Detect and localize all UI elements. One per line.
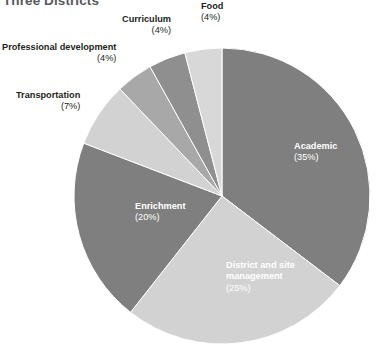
chart-canvas: Three Districts Food (4%) Curriculum (4%… [0,0,386,353]
pie-label-professional-development-name: Professional development [2,42,116,53]
pie-label-professional-development: Professional development (4%) [2,42,116,65]
pie-label-transportation-percent: (7%) [16,101,80,112]
pie-label-professional-development-percent: (4%) [2,53,116,64]
pie-slice-group [74,48,370,344]
pie-label-enrichment: Enrichment (20%) [135,201,186,224]
pie-label-district-and-site-management-name-line1: District and site [226,260,295,271]
pie-label-transportation-name: Transportation [16,90,80,101]
pie-label-curriculum: Curriculum (4%) [122,14,171,37]
pie-label-academic: Academic (35%) [294,141,337,164]
pie-label-academic-percent: (35%) [294,152,337,163]
pie-label-curriculum-name: Curriculum [122,14,171,25]
pie-label-food-name: Food [201,1,223,12]
pie-label-food: Food (4%) [201,1,223,24]
pie-label-district-and-site-management-name-line2: management [226,271,295,282]
pie-label-transportation: Transportation (7%) [16,90,80,113]
pie-label-district-and-site-management-percent: (25%) [226,283,295,294]
pie-label-food-percent: (4%) [201,12,223,23]
pie-label-enrichment-name: Enrichment [135,201,186,212]
pie-label-enrichment-percent: (20%) [135,212,186,223]
pie-label-district-and-site-management: District and site management (25%) [226,260,295,294]
pie-label-curriculum-percent: (4%) [122,25,171,36]
pie-label-academic-name: Academic [294,141,337,152]
